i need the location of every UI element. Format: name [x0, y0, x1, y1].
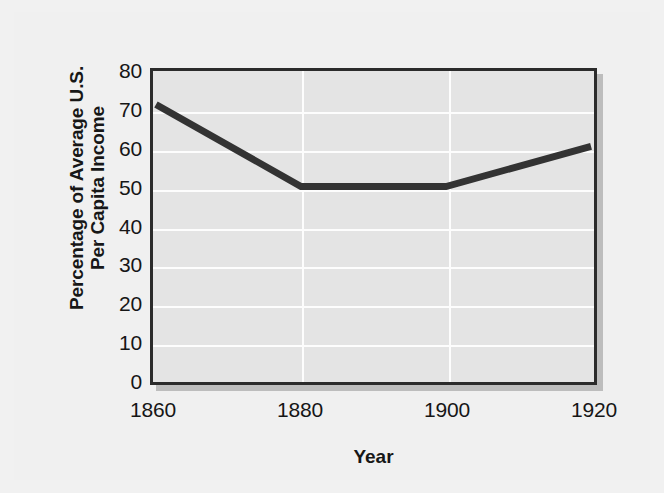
- y-tick-label: 50: [96, 176, 142, 200]
- x-tick-label: 1880: [240, 398, 360, 422]
- y-tick-label: 70: [96, 98, 142, 122]
- x-tick-label: 1860: [93, 398, 213, 422]
- y-tick-label: 20: [96, 292, 142, 316]
- y-axis-title-line-1: Percentage of Average U.S.: [66, 66, 87, 310]
- x-axis-title: Year: [150, 446, 597, 468]
- y-tick-label: 0: [96, 370, 142, 394]
- x-tick-label: 1900: [387, 398, 507, 422]
- plot-area: [150, 68, 597, 385]
- y-tick-label: 80: [96, 59, 142, 83]
- y-tick-label: 40: [96, 215, 142, 239]
- line-series: [153, 71, 594, 382]
- x-axis-tick-labels: 1860188019001920: [0, 398, 664, 428]
- y-tick-label: 60: [96, 137, 142, 161]
- y-tick-label: 30: [96, 253, 142, 277]
- x-tick-label: 1920: [534, 398, 654, 422]
- y-tick-label: 10: [96, 331, 142, 355]
- series-polyline: [156, 104, 591, 186]
- y-axis-tick-labels: 01020304050607080: [96, 68, 142, 385]
- chart-figure: Percentage of Average U.S. Per Capita In…: [0, 0, 664, 493]
